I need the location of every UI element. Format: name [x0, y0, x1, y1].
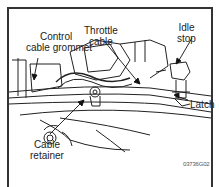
label-line-2: stop	[177, 33, 196, 44]
label-latch: Latch	[190, 99, 214, 110]
label-line-1: Control	[20, 31, 92, 42]
label-control-cable-grommet: Control cable grommet	[20, 31, 92, 53]
label-line-1: Idle	[177, 22, 196, 33]
label-line-2: retainer	[30, 150, 64, 161]
label-line-1: Cable	[30, 139, 64, 150]
label-line-2: cable	[84, 36, 118, 47]
label-cable-retainer: Cable retainer	[30, 139, 64, 161]
label-line-1: Throttle	[84, 25, 118, 36]
label-line-2: cable grommet	[26, 42, 92, 53]
label-throttle-cable: Throttle cable	[84, 25, 118, 47]
label-idle-stop: Idle stop	[177, 22, 196, 44]
figure-code: 03736G02	[183, 161, 209, 167]
